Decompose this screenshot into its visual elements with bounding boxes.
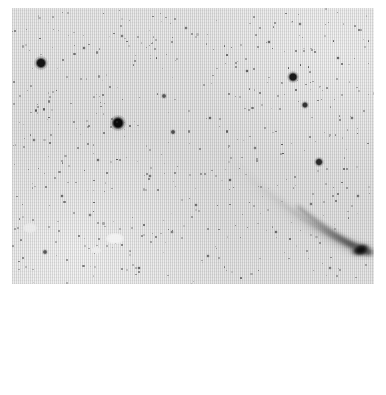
plate-speck [19,218,20,219]
plate-speck [338,268,339,269]
plate-speck [137,161,138,162]
plate-speck [219,126,220,127]
plate-speck [339,115,341,117]
plate-speck [76,128,77,129]
plate-speck [82,265,84,267]
plate-speck [54,177,56,179]
plate-speck [43,109,45,111]
plate-speck [64,155,66,157]
plate-speck [333,187,334,188]
plate-speck [296,245,298,247]
plate-speck [126,157,127,158]
plate-speck [57,221,58,222]
plate-speck [149,30,150,31]
plate-speck [239,168,241,170]
plate-speck [267,209,269,211]
plate-speck [357,128,358,129]
plate-speck [93,190,94,191]
plate-blemish [23,223,37,233]
plate-speck [357,133,358,134]
plate-speck [77,147,79,149]
plate-speck [240,44,242,46]
plate-speck [155,236,157,238]
figure-annotations: 2° 1 x 107 km [0,284,386,395]
plate-speck [37,104,38,105]
comet-nucleus [344,239,374,261]
plate-speck [155,39,157,41]
plate-speck [250,273,252,275]
plate-speck [49,142,50,143]
plate-speck [70,103,72,105]
plate-speck [23,124,24,125]
plate-speck [35,109,37,111]
plate-speck [346,187,348,189]
plate-speck [48,156,49,157]
plate-speck [228,145,230,147]
plate-speck [73,53,75,55]
plate-speck [193,281,194,282]
plate-speck [328,22,329,23]
plate-speck [264,127,266,129]
plate-speck [228,93,229,94]
plate-speck [174,99,176,101]
plate-speck [143,224,145,226]
plate-speck [164,173,165,174]
star [42,249,47,254]
plate-speck [226,270,227,271]
plate-speck [17,227,19,229]
plate-speck [96,113,97,114]
plate-speck [196,33,198,35]
plate-speck [62,162,64,164]
plate-speck [201,260,203,262]
plate-speck [256,160,258,162]
plate-speck [259,258,260,259]
plate-speck [14,30,16,32]
plate-speck [66,259,68,261]
plate-speck [358,90,360,92]
plate-speck [153,36,155,38]
star [253,146,257,150]
plate-speck [343,168,345,170]
plate-speck [347,129,348,130]
plate-speck [326,168,328,170]
plate-speck [103,132,105,134]
plate-speck [137,125,138,126]
plate-speck [87,190,88,191]
plate-speck [221,180,222,181]
plate-speck [218,229,219,230]
plate-speck [298,14,299,15]
plate-speck [119,10,120,11]
plate-speck [259,92,261,94]
plate-speck [124,122,125,123]
plate-speck [38,15,40,17]
plate-speck [138,271,140,273]
plate-speck [58,30,59,31]
plate-speck [106,245,108,247]
plate-speck [150,55,151,56]
plate-speck [251,107,253,109]
plate-speck [34,186,35,187]
plate-speck [249,88,251,90]
plate-speck [334,234,335,235]
plate-speck [117,87,118,88]
plate-speck [143,234,145,236]
plate-speck [204,173,206,175]
plate-speck [35,110,36,111]
plate-speck [141,42,142,43]
plate-speck [199,148,201,150]
plate-speck [226,130,228,132]
plate-speck [131,227,133,229]
plate-speck [310,48,312,50]
plate-speck [122,99,123,100]
plate-speck [195,188,196,189]
plate-speck [228,161,230,163]
plate-speck [330,257,332,259]
plate-speck [113,221,114,222]
plate-speck [57,68,58,69]
plate-speck [355,277,357,279]
star [336,56,340,60]
plate-speck [260,186,262,188]
plate-speck [13,145,14,146]
plate-speck [356,166,358,168]
plate-speck [171,213,172,214]
